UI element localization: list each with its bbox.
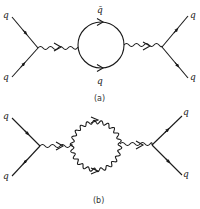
panel-b: q q q q (b) [3, 107, 189, 205]
caption-a: (a) [94, 94, 105, 103]
outgoing-quark-bottom-b [152, 145, 182, 175]
incoming-quark-top-a [12, 17, 38, 48]
incoming-quark-bottom-b [12, 146, 40, 176]
label-in-bottom-a: q [3, 72, 9, 82]
quark-loop-a [78, 22, 124, 68]
outgoing-quark-bottom-a [162, 47, 188, 78]
label-in-top-a: q [3, 10, 9, 20]
label-out-top-b: q [183, 107, 189, 117]
label-out-bottom-b: q [183, 169, 189, 179]
panel-a: q q q̄ q q q (a) [3, 5, 196, 103]
caption-b: (b) [93, 196, 104, 205]
label-loop-bottom-a: q [97, 76, 103, 86]
gluon-propagator-left-b [40, 145, 72, 148]
chevron-icon [54, 43, 61, 51]
outgoing-quark-top-b [152, 116, 182, 145]
gluon-propagator-right-a [124, 44, 162, 47]
gluon-loop-b [70, 120, 121, 171]
label-in-top-b: q [3, 111, 9, 121]
label-out-bottom-a: q [190, 72, 196, 82]
feynman-diagram-figure: q q q̄ q q q (a) [0, 0, 200, 209]
label-out-top-a: q [190, 10, 196, 20]
incoming-quark-bottom-a [12, 48, 38, 77]
outgoing-quark-top-a [162, 16, 188, 47]
gluon-propagator-right-b [120, 143, 152, 146]
label-loop-top-a: q̄ [97, 5, 103, 15]
incoming-quark-top-b [12, 118, 40, 146]
label-in-bottom-b: q [3, 171, 9, 181]
